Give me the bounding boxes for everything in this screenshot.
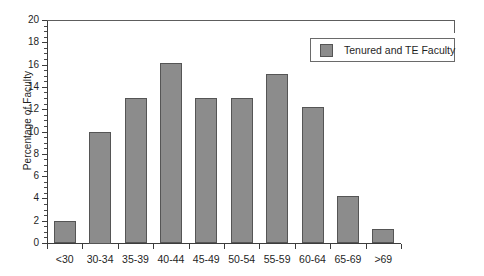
y-tick-label: 4 [0, 193, 39, 203]
x-tick [189, 244, 190, 249]
bar [372, 229, 394, 243]
x-tick [401, 244, 402, 249]
bar [266, 74, 288, 243]
bar [231, 98, 253, 243]
y-tick-label: 14 [0, 82, 39, 92]
y-tick-label: 2 [0, 216, 39, 226]
y-tick-label: 16 [0, 60, 39, 70]
x-tick [330, 244, 331, 249]
x-tick [82, 244, 83, 249]
x-tick [153, 244, 154, 249]
legend-label: Tenured and TE Faculty [344, 44, 455, 56]
bar-chart: Percentage of Faculty 02468101214161820 … [0, 0, 484, 276]
y-tick-label: 0 [0, 238, 39, 248]
bar [54, 221, 76, 243]
plot-frame-top [47, 20, 455, 21]
bar [160, 63, 182, 243]
x-tick [295, 244, 296, 249]
y-tick-label: 12 [0, 104, 39, 114]
x-tick [366, 244, 367, 249]
bar [337, 196, 359, 243]
bar [125, 98, 147, 243]
y-tick-label: 8 [0, 149, 39, 159]
plot-frame-right [454, 20, 455, 33]
y-tick-label: 20 [0, 15, 39, 25]
x-tick-label: >69 [353, 253, 413, 265]
y-tick-label: 10 [0, 127, 39, 137]
chart-legend: Tenured and TE Faculty [310, 38, 455, 62]
y-tick-label: 6 [0, 171, 39, 181]
x-tick [118, 244, 119, 249]
x-tick [224, 244, 225, 249]
y-tick-label: 18 [0, 37, 39, 47]
x-tick [47, 244, 48, 249]
bar [195, 98, 217, 243]
x-tick [259, 244, 260, 249]
bar [302, 107, 324, 243]
legend-swatch-icon [320, 44, 333, 57]
bar [89, 132, 111, 244]
